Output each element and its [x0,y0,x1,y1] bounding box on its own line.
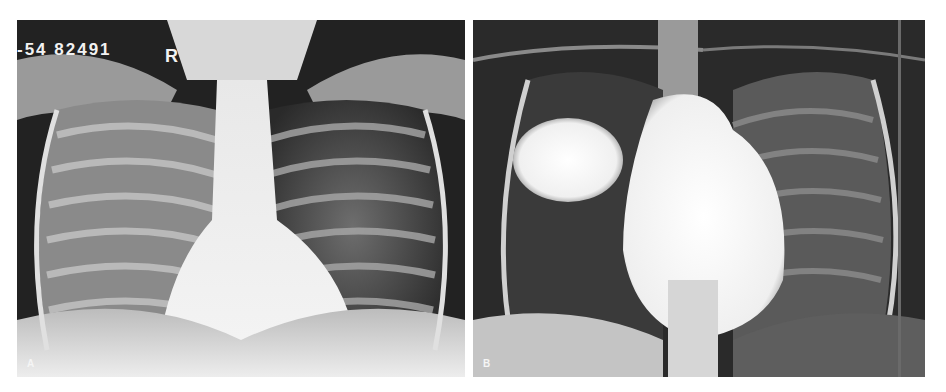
xray-panel-a: -54 82491 R A [17,20,465,377]
chest-xray-b-image [473,20,925,377]
panel-label-a: A [27,358,34,369]
panel-label-b: B [483,358,490,369]
film-id-label: -54 82491 [17,40,112,60]
side-marker-label: R [165,46,180,67]
chest-xray-a-image [17,20,465,377]
xray-panel-b: B [473,20,925,377]
